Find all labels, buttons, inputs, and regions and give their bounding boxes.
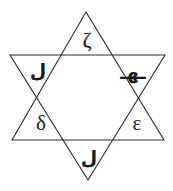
hexagram-drawing — [0, 0, 173, 191]
hexagram-figure: ζ δ ε ل ـهـ ل — [0, 0, 173, 191]
figure-background — [0, 0, 173, 191]
